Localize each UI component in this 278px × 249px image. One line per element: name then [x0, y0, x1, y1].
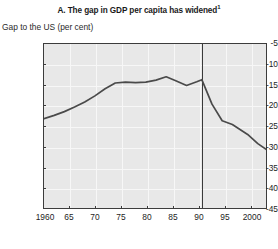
- y-tick-label: -20: [240, 101, 278, 109]
- x-tick-label: 65: [64, 213, 73, 221]
- x-tick-label: 2000: [243, 213, 262, 221]
- x-tick-mark: [173, 206, 174, 209]
- x-tick-label: 85: [168, 213, 177, 221]
- y-tick-label: -30: [240, 143, 278, 151]
- x-tick-label: 95: [220, 213, 229, 221]
- x-tick-mark: [69, 206, 70, 209]
- x-tick-mark: [199, 206, 200, 209]
- chart-figure: A. The gap in GDP per capita has widened…: [0, 0, 278, 249]
- y-tick-label: -35: [240, 164, 278, 172]
- x-tick-mark: [251, 206, 252, 209]
- y-tick-mark: [43, 188, 46, 189]
- y-tick-mark: [43, 126, 46, 127]
- y-tick-label: -5: [240, 39, 278, 47]
- x-tick-label: 70: [90, 213, 99, 221]
- y-tick-label: -15: [240, 81, 278, 89]
- x-tick-mark: [95, 206, 96, 209]
- x-tick-mark: [121, 206, 122, 209]
- y-tick-mark: [43, 105, 46, 106]
- y-tick-mark: [43, 168, 46, 169]
- y-tick-label: -25: [240, 122, 278, 130]
- x-tick-label: 1960: [36, 213, 55, 221]
- y-tick-label: -40: [240, 184, 278, 192]
- chart-title: A. The gap in GDP per capita has widened…: [0, 5, 278, 16]
- chart-title-footnote-marker: 1: [217, 4, 220, 10]
- series-line-gap-to-us: [44, 44, 267, 209]
- x-tick-label: 90: [194, 213, 203, 221]
- x-tick-mark: [147, 206, 148, 209]
- y-tick-mark: [43, 147, 46, 148]
- y-tick-label: -10: [240, 60, 278, 68]
- plot-area: [43, 43, 267, 209]
- y-axis-label: Gap to the US (per cent): [2, 22, 93, 32]
- x-tick-mark: [225, 206, 226, 209]
- x-tick-label: 80: [142, 213, 151, 221]
- chart-title-text: A. The gap in GDP per capita has widened: [58, 6, 218, 15]
- y-tick-mark: [43, 64, 46, 65]
- y-tick-mark: [43, 85, 46, 86]
- x-tick-label: 75: [116, 213, 125, 221]
